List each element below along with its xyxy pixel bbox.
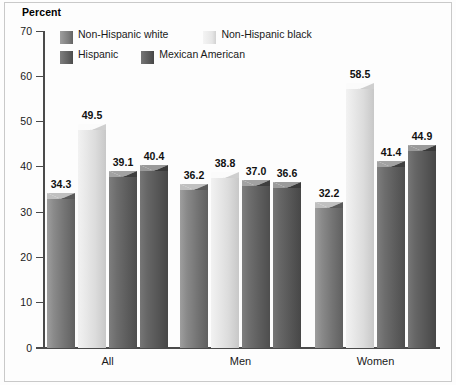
- bar-value-label: 34.3: [51, 179, 71, 190]
- legend-item-non-hispanic-black[interactable]: Non-Hispanic black: [203, 28, 311, 46]
- bar-men-mexican-american[interactable]: [273, 182, 301, 348]
- bar-all-hispanic[interactable]: [109, 171, 137, 348]
- bar-body: [47, 198, 75, 348]
- y-axis-tick-label-20: 20: [6, 252, 32, 263]
- category-label-men: Men: [180, 355, 301, 367]
- bar-value-label: 41.4: [381, 147, 401, 158]
- legend-item-non-hispanic-white[interactable]: Non-Hispanic white: [60, 28, 168, 46]
- y-axis-tick-label-40: 40: [6, 161, 32, 172]
- legend-item-hispanic[interactable]: Hispanic: [60, 48, 118, 66]
- y-axis-tick-label-60: 60: [6, 71, 32, 82]
- bar-chart: Percent 010203040506070 34.349.539.140.4…: [0, 0, 456, 385]
- bar-top-cap: [315, 202, 343, 208]
- bar-women-non-hispanic-black[interactable]: [346, 83, 374, 348]
- bar-men-non-hispanic-black[interactable]: [211, 172, 239, 348]
- bar-top-cap: [78, 124, 106, 130]
- legend-swatch-icon-hispanic: [60, 51, 73, 64]
- y-axis-tick-label-0: 0: [6, 343, 32, 354]
- bar-body: [408, 150, 436, 348]
- bar-all-non-hispanic-black[interactable]: [78, 124, 106, 348]
- bar-body: [140, 170, 168, 348]
- y-axis-tick-50: [36, 121, 44, 122]
- bar-value-label: 44.9: [412, 131, 432, 142]
- legend-row-1: Non-Hispanic white Non-Hispanic black: [60, 28, 312, 44]
- legend-swatch-icon-non-hispanic-white: [60, 31, 73, 44]
- legend-label-hispanic: Hispanic: [78, 48, 118, 61]
- bar-body: [273, 187, 301, 348]
- legend-row-2: Hispanic Mexican American: [60, 48, 245, 64]
- frame-edge-bottom: [4, 381, 452, 382]
- y-axis-tick-10: [36, 302, 44, 303]
- bar-value-label: 38.8: [215, 158, 235, 169]
- bar-men-non-hispanic-white[interactable]: [180, 184, 208, 348]
- bar-all-non-hispanic-white[interactable]: [47, 193, 75, 348]
- legend-swatch-icon-non-hispanic-black: [203, 31, 216, 44]
- bar-body: [242, 185, 270, 348]
- bar-top-cap: [346, 83, 374, 89]
- bar-top-cap: [377, 161, 405, 167]
- bar-value-label: 58.5: [350, 69, 370, 80]
- category-label-women: Women: [315, 355, 436, 367]
- bar-top-cap: [242, 180, 270, 186]
- bar-body: [180, 189, 208, 348]
- bar-body: [377, 166, 405, 348]
- bar-all-mexican-american[interactable]: [140, 165, 168, 348]
- bar-body: [211, 177, 239, 348]
- y-axis-tick-label-50: 50: [6, 116, 32, 127]
- bar-top-cap: [47, 193, 75, 199]
- chart-legend: Non-Hispanic white Non-Hispanic black Hi…: [60, 28, 340, 70]
- y-axis-title: Percent: [22, 6, 61, 18]
- bar-value-label: 40.4: [144, 151, 164, 162]
- y-axis-tick-label-10: 10: [6, 297, 32, 308]
- frame-edge-top: [4, 2, 452, 3]
- y-axis-tick-30: [36, 212, 44, 213]
- bar-top-cap: [408, 145, 436, 151]
- y-axis-tick-60: [36, 76, 44, 77]
- bar-women-mexican-american[interactable]: [408, 145, 436, 348]
- bar-women-hispanic[interactable]: [377, 161, 405, 348]
- bar-top-cap: [211, 172, 239, 178]
- y-axis-tick-20: [36, 257, 44, 258]
- legend-item-mexican-american[interactable]: Mexican American: [141, 48, 245, 66]
- legend-label-mexican-american: Mexican American: [159, 48, 245, 61]
- bar-top-cap: [140, 165, 168, 171]
- bar-body: [78, 129, 106, 348]
- bar-value-label: 49.5: [82, 110, 102, 121]
- y-axis-tick-70: [36, 31, 44, 32]
- bar-value-label: 32.2: [319, 188, 339, 199]
- legend-label-non-hispanic-white: Non-Hispanic white: [78, 28, 168, 41]
- bar-value-label: 36.6: [277, 168, 297, 179]
- legend-label-non-hispanic-black: Non-Hispanic black: [221, 28, 311, 41]
- y-axis-tick-40: [36, 166, 44, 167]
- bar-top-cap: [180, 184, 208, 190]
- bar-top-cap: [273, 182, 301, 188]
- bar-value-label: 37.0: [246, 166, 266, 177]
- bar-body: [315, 207, 343, 348]
- frame-edge-left: [4, 2, 5, 382]
- category-label-all: All: [47, 355, 168, 367]
- bar-top-cap: [109, 171, 137, 177]
- y-axis-tick-0: [36, 348, 44, 349]
- legend-swatch-icon-mexican-american: [141, 51, 154, 64]
- bar-men-hispanic[interactable]: [242, 180, 270, 348]
- bar-body: [346, 88, 374, 348]
- frame-edge-right: [451, 2, 452, 382]
- bar-body: [109, 176, 137, 348]
- bar-value-label: 36.2: [184, 170, 204, 181]
- y-axis-tick-label-70: 70: [6, 26, 32, 37]
- y-axis-tick-label-30: 30: [6, 207, 32, 218]
- bar-value-label: 39.1: [113, 157, 133, 168]
- bar-women-non-hispanic-white[interactable]: [315, 202, 343, 348]
